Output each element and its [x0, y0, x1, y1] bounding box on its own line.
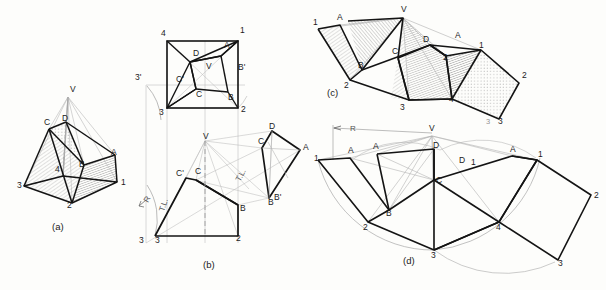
panel-c-label-3b: 3: [498, 116, 503, 126]
stray-mark-3: 3: [486, 117, 490, 126]
panel-c-label-1a: 1: [313, 17, 318, 27]
panel-b-label-C-fv: C: [195, 166, 201, 176]
panel-a-label-D: D: [62, 113, 68, 123]
panel-c-label-2b: 2: [443, 52, 448, 62]
panel-c-label-2c: 2: [522, 70, 527, 80]
panel-a-label-1: 1: [121, 177, 126, 187]
panel-d-label-B: B: [386, 208, 392, 218]
panel-b-label-Bp-fv: B': [274, 192, 282, 202]
panel-b-label-1-tv: 1: [240, 25, 245, 35]
panel-c-caption: (c): [327, 87, 338, 98]
panel-d-label-1a: 1: [314, 153, 319, 163]
panel-b-label-Bp-tv: B': [238, 62, 246, 72]
panel-a-label-B: B: [79, 159, 85, 169]
panel-d-label-A1: A: [348, 145, 354, 155]
technical-drawing-sheet: V D C A B 4 3 2 1 (a): [0, 0, 606, 290]
panel-a-label-C: C: [44, 117, 50, 127]
panel-b-label-3p-fv: 3: [139, 235, 144, 245]
panel-b-label-Cp-tv: C': [176, 74, 184, 84]
panel-b-label-A-tv: A: [224, 40, 230, 50]
panel-c-label-B: B: [358, 60, 364, 70]
panel-d-label-3b: 3: [558, 258, 563, 268]
panel-c-label-V: V: [401, 4, 407, 14]
panel-d-label-D1: D: [433, 140, 439, 150]
panel-b-label-D-aux: D: [269, 121, 275, 131]
panel-b-label-D-tv: D: [193, 48, 199, 58]
panel-c-label-A1: A: [337, 12, 343, 22]
panel-b-label-C-tv: C: [196, 89, 202, 99]
panel-c-label-1b: 1: [479, 40, 484, 50]
panel-b-label-A-aux: A: [303, 142, 309, 152]
panel-b-label-4: 4: [161, 28, 166, 38]
panel-c-label-4: 4: [449, 94, 454, 104]
panel-d-label-V: V: [429, 123, 435, 133]
panel-a-caption: (a): [52, 221, 64, 232]
panel-b-label-Cp-fv: C': [176, 168, 184, 178]
panel-c-label-A2: A: [455, 30, 461, 40]
panel-c-label-D: D: [423, 34, 429, 44]
panel-d-label-1c: 1: [538, 149, 543, 159]
panel-b-label-2-tv: 2: [241, 104, 246, 114]
panel-b-label-B-fv: B: [240, 203, 246, 213]
panel-b-label-V-tv: V: [206, 61, 212, 71]
panel-b-label-2-fv: 2: [236, 233, 241, 243]
panel-b-label-V-fv: V: [203, 131, 209, 141]
panel-b-caption: (b): [203, 259, 215, 270]
panel-a-label-2: 2: [67, 200, 72, 210]
panel-d-label-4: 4: [496, 222, 501, 232]
panel-d-label-A3: A: [510, 144, 516, 154]
panel-b-label-3p: 3': [135, 72, 142, 82]
panel-c-label-2a: 2: [344, 80, 349, 90]
panel-d-caption: (d): [403, 255, 415, 266]
panel-b-label-C-aux: C: [258, 136, 264, 146]
panel-d-annotation-R: R: [350, 124, 356, 133]
panel-c-label-3a: 3: [400, 102, 405, 112]
panel-d-label-A2: A: [373, 141, 379, 151]
panel-b-label-3-tv: 3: [159, 107, 164, 117]
panel-b-label-3-fv: 3: [155, 235, 160, 245]
panel-d-label-1b: 1: [471, 157, 476, 167]
panel-a-label-A: A: [111, 147, 117, 157]
panel-c-label-C: C: [392, 46, 398, 56]
panel-a-label-V: V: [70, 84, 76, 94]
panel-a-label-4: 4: [55, 164, 60, 174]
panel-a-label-3: 3: [17, 180, 22, 190]
panel-d-label-D2: D: [459, 155, 465, 165]
panel-d-label-2b: 2: [594, 190, 599, 200]
panel-b-label-B-tv: B: [228, 92, 234, 102]
panel-d-label-3a: 3: [431, 250, 436, 260]
panel-d-label-C: C: [436, 175, 442, 185]
panel-d-label-2a: 2: [363, 222, 368, 232]
